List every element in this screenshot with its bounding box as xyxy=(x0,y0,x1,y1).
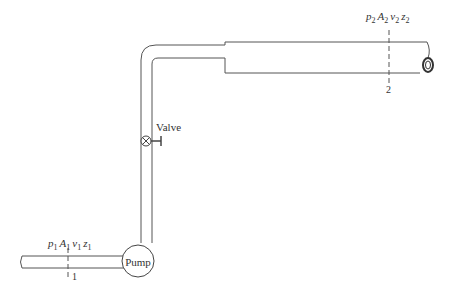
section-1-variables: p1A1v1z1 xyxy=(47,237,91,252)
pump-label: Pump xyxy=(125,256,151,268)
outlet-pipe xyxy=(225,42,429,73)
outlet-end-icon xyxy=(423,58,433,72)
section-2-number: 2 xyxy=(386,84,391,95)
riser-pipe xyxy=(141,45,225,243)
svg-text:p1A1v1z1: p1A1v1z1 xyxy=(47,237,91,252)
section-1-number: 1 xyxy=(72,271,77,282)
valve-icon xyxy=(141,136,161,146)
pipe-system-diagram: Pump Valve p1A1v1z1 1 p2A2v2z2 2 xyxy=(0,0,450,284)
inlet-pipe xyxy=(21,256,137,268)
section-2-variables: p2A2v2z2 xyxy=(365,10,409,25)
svg-text:p2A2v2z2: p2A2v2z2 xyxy=(365,10,409,25)
valve-label: Valve xyxy=(156,121,181,133)
